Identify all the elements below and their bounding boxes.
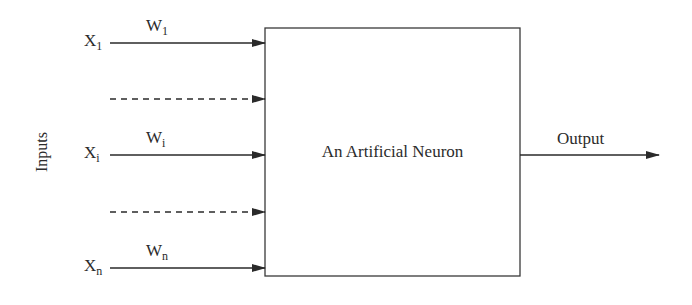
neuron-title-text: An Artificial Neuron (322, 142, 464, 162)
inputs-label: Inputs (33, 132, 51, 172)
neuron-title: An Artificial Neuron (265, 28, 520, 276)
output-label: Output (557, 129, 604, 149)
weight-w1-label: W1 (146, 16, 168, 39)
input-xn-label: Xn (84, 256, 102, 279)
input-xi-label: Xi (84, 143, 100, 166)
input-x1-label: X1 (84, 31, 102, 54)
weight-wn-label: Wn (146, 241, 168, 264)
weight-wi-label: Wi (146, 128, 165, 151)
